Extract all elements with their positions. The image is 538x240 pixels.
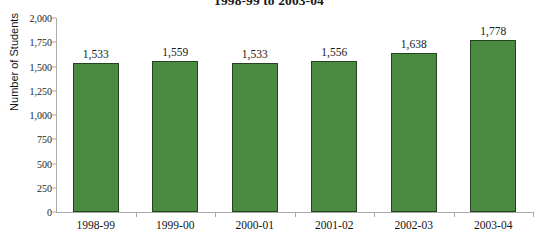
y-axis-tick-label: 250: [37, 182, 52, 193]
bar-value-label: 1,533: [242, 48, 268, 60]
y-axis-tick-label: 500: [37, 158, 52, 169]
bar-group: 1,778: [454, 18, 534, 212]
x-axis-tick-mark: [215, 212, 216, 217]
bar-group: 1,559: [136, 18, 216, 212]
y-axis-tick-label: 1,750: [30, 37, 53, 48]
chart-title: 1998-99 to 2003-04: [0, 0, 538, 9]
x-axis-category-label: 1999-00: [156, 219, 194, 231]
x-axis-tick-mark: [295, 212, 296, 217]
bar[interactable]: [470, 40, 516, 212]
y-axis-tick-label: 1,000: [30, 110, 53, 121]
x-axis-category-label: 2003-04: [474, 219, 512, 231]
y-axis-tick-label: 1,500: [30, 61, 53, 72]
bar-group: 1,533: [215, 18, 295, 212]
x-axis-tick-mark: [454, 212, 455, 217]
x-axis-tick-mark: [533, 212, 534, 217]
x-axis-category-label: 1998-99: [77, 219, 115, 231]
x-axis-tick-mark: [374, 212, 375, 217]
bar[interactable]: [152, 61, 198, 212]
bar-group: 1,638: [374, 18, 454, 212]
plot-area: 2,0001,7501,5001,2501,00075050025001,533…: [56, 18, 533, 212]
y-axis-tick-label: 1,250: [30, 85, 53, 96]
bar-chart: 1998-99 to 2003-04 Number of Students 2,…: [0, 0, 538, 240]
x-axis-tick-mark: [136, 212, 137, 217]
bar-value-label: 1,556: [321, 46, 347, 58]
bar-value-label: 1,533: [83, 48, 109, 60]
bar[interactable]: [311, 61, 357, 212]
y-axis-tick-label: 2,000: [30, 13, 53, 24]
bar[interactable]: [232, 63, 278, 212]
x-axis-category-label: 2002-03: [395, 219, 433, 231]
bar-value-label: 1,559: [162, 46, 188, 58]
bar-value-label: 1,778: [480, 25, 506, 37]
bar[interactable]: [73, 63, 119, 212]
bar-group: 1,556: [295, 18, 375, 212]
bar-group: 1,533: [56, 18, 136, 212]
bar[interactable]: [391, 53, 437, 212]
y-axis-tick-label: 750: [37, 134, 52, 145]
x-axis-category-label: 2001-02: [315, 219, 353, 231]
x-axis-category-label: 2000-01: [236, 219, 274, 231]
bar-value-label: 1,638: [401, 38, 427, 50]
y-axis-title: Number of Students: [8, 0, 20, 127]
